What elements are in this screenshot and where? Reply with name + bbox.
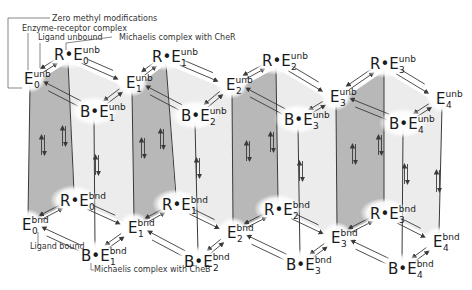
methylation-state-diagram: Eunb0R•Eunb0Eunb1B•Eunb1R•Eunb1Eunb2B•Eu… (0, 0, 472, 290)
enzyme-receptor-label: Enzyme-receptor complex (22, 24, 127, 33)
zero-methyl-label: Zero methyl modifications (52, 14, 157, 23)
state-node-E4b: Ebnd4 (433, 232, 460, 253)
state-node-E1b: Ebnd1 (128, 218, 155, 239)
state-node-RE1u: R•Eunb1 (152, 47, 198, 68)
ligand-unbound-label: Ligand unbound (38, 33, 103, 42)
state-node-E3b: Ebnd3 (331, 228, 358, 249)
ligand-bound-label: Ligand bound (30, 242, 85, 251)
state-node-RE2u: R•Eunb2 (262, 51, 308, 72)
state-node-E0b: Ebnd0 (22, 215, 49, 236)
state-node-BE1b: B•Ebnd1 (81, 246, 127, 267)
state-node-RE0u: R•Eunb0 (54, 45, 100, 66)
state-node-E2b: Ebnd2 (227, 223, 254, 244)
state-node-BE4b: B•Ebnd4 (388, 259, 434, 280)
state-node-E4u: Eunb4 (436, 89, 463, 110)
michaelis-cher-label: Michaelis complex with CheR (119, 33, 236, 42)
state-node-RE3u: R•Eunb3 (370, 54, 416, 75)
michaelis-cheb-label: Michaelis complex with CheB (94, 265, 211, 274)
state-node-BE3b: B•Ebnd3 (286, 255, 332, 276)
